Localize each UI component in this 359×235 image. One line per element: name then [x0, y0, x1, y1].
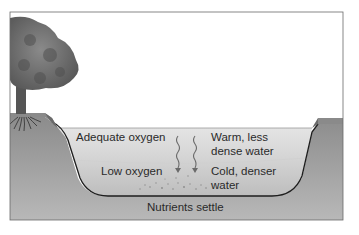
label-warm-line1: Warm, less: [211, 131, 268, 144]
label-cold-line1: Cold, denser: [211, 165, 276, 178]
diagram-canvas: [0, 0, 359, 235]
label-cold-line2: water: [211, 179, 239, 192]
lake-stratification-diagram: Adequate oxygen Warm, less dense water L…: [0, 0, 359, 235]
label-adequate-oxygen: Adequate oxygen: [76, 131, 166, 144]
label-warm-line2: dense water: [211, 145, 274, 158]
label-nutrients-settle: Nutrients settle: [147, 201, 224, 214]
label-low-oxygen: Low oxygen: [101, 165, 162, 178]
right-bank-grass: [318, 118, 343, 124]
